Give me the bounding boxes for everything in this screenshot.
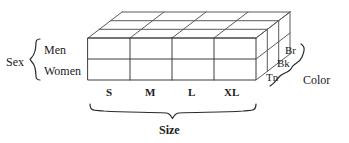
size-level-xl: XL: [224, 86, 239, 98]
size-axis-label: Size: [159, 124, 180, 136]
three-way-table-cube-figure: Sex Men Women S M L XL Size Br Bk Tn Col…: [0, 0, 349, 143]
color-level-bk: Bk: [277, 58, 290, 69]
color-level-br: Br: [285, 45, 296, 56]
size-brace: [90, 104, 256, 119]
cube-front-face: [88, 38, 256, 80]
size-level-m: M: [145, 86, 155, 98]
color-axis-label: Color: [303, 74, 330, 86]
sex-axis-label: Sex: [6, 56, 24, 68]
sex-level-men: Men: [44, 44, 66, 56]
color-level-tn: Tn: [266, 72, 278, 83]
cube-top-face: [88, 12, 290, 38]
sex-level-women: Women: [44, 65, 81, 77]
size-level-l: L: [188, 86, 195, 98]
size-level-s: S: [106, 86, 112, 98]
sex-brace: [30, 39, 40, 80]
